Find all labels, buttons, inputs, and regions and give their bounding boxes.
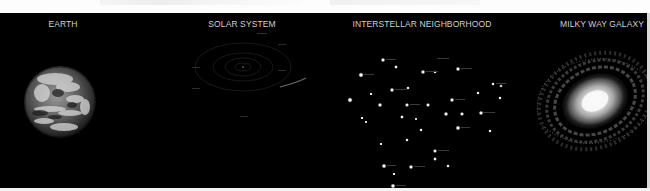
label-earth: EARTH [48, 19, 77, 29]
earth-globe-icon [0, 13, 647, 188]
label-interstellar-neighborhood: INTERSTELLAR NEIGHBORHOOD [353, 19, 492, 29]
scale-comparison-panel: EARTH SOLAR SYSTEM INTERSTELLAR NEIGHBOR… [0, 13, 647, 188]
cropped-header-remnant [330, 0, 480, 5]
star-field-icon [347, 57, 506, 188]
label-milky-way-galaxy: MILKY WAY GALAXY [560, 19, 644, 29]
top-margin [0, 0, 650, 13]
cropped-header-remnant [100, 0, 300, 5]
orbit-diagram-icon [195, 43, 291, 91]
bottom-margin [0, 188, 650, 191]
label-solar-system: SOLAR SYSTEM [208, 19, 275, 29]
spiral-galaxy-icon [523, 35, 647, 167]
